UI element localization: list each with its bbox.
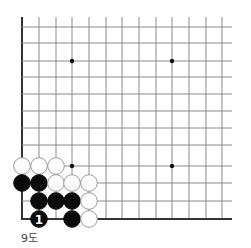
white-stone xyxy=(48,175,65,192)
black-stone xyxy=(31,193,48,210)
black-stone xyxy=(14,175,31,192)
white-stone xyxy=(81,193,98,210)
star-point xyxy=(170,164,174,168)
black-stone xyxy=(31,175,48,192)
go-board: 1 xyxy=(0,0,251,248)
white-stone xyxy=(64,175,81,192)
white-stone xyxy=(31,158,48,175)
star-point xyxy=(70,164,74,168)
black-stone xyxy=(48,193,65,210)
move-number-label: 1 xyxy=(35,213,43,227)
black-stone xyxy=(64,193,81,210)
white-stone xyxy=(81,175,98,192)
black-stone xyxy=(64,211,81,228)
white-stone xyxy=(48,158,65,175)
white-stone xyxy=(81,211,98,228)
star-point xyxy=(170,59,174,63)
star-point xyxy=(70,59,74,63)
white-stone xyxy=(14,158,31,175)
diagram-caption: 9도 xyxy=(21,229,38,245)
